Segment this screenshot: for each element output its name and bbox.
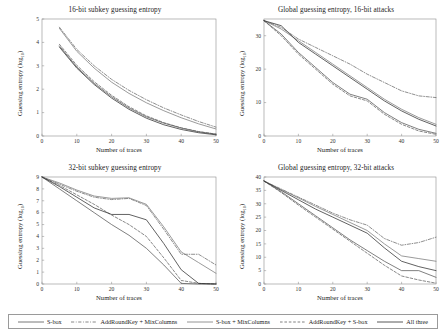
legend-label: S-box bbox=[47, 318, 62, 325]
x-axis-label: Number of traces bbox=[32, 146, 206, 153]
x-axis-label: Number of traces bbox=[254, 146, 426, 153]
y-axis-label-subscript: 10 bbox=[242, 53, 247, 57]
legend-label: AddRoundKey + MixColumns bbox=[100, 318, 177, 325]
legend-label: S-box + MixColumns bbox=[216, 318, 270, 325]
y-axis-label: Guessing entropy (log10) bbox=[16, 50, 25, 115]
x-tick-label: 0 bbox=[32, 286, 52, 292]
y-axis-label-paren: ) bbox=[238, 203, 245, 205]
series-line bbox=[264, 21, 436, 126]
x-tick-label: 0 bbox=[254, 286, 274, 292]
figure-root: 16-bit subkey guessing entropy0102030405… bbox=[0, 0, 445, 334]
legend-line-swatch bbox=[280, 319, 306, 325]
legend-row: S-boxAddRoundKey + MixColumnsS-box + Mix… bbox=[9, 315, 437, 328]
series-line bbox=[42, 177, 216, 284]
x-tick-label: 50 bbox=[206, 286, 226, 292]
y-axis-label-subscript: 10 bbox=[20, 206, 25, 210]
series-line bbox=[264, 21, 436, 134]
series-line bbox=[42, 177, 216, 284]
series-line bbox=[59, 44, 216, 134]
legend-line-swatch bbox=[71, 319, 97, 325]
y-tick-label: 15 bbox=[248, 241, 261, 247]
x-axis-label: Number of traces bbox=[32, 294, 206, 301]
x-tick-label: 30 bbox=[136, 286, 156, 292]
x-tick-label: 40 bbox=[392, 138, 412, 144]
y-axis-label-text: Guessing entropy (log bbox=[238, 57, 245, 116]
chart-panel-bottom-right: Global guessing entropy, 32-bit attacks0… bbox=[230, 164, 442, 306]
legend-label: All three bbox=[406, 318, 428, 325]
y-tick-label: 20 bbox=[248, 227, 261, 233]
legend-item[interactable]: AddRoundKey + MixColumns bbox=[71, 318, 177, 325]
x-tick-label: 50 bbox=[426, 286, 445, 292]
y-tick-label: 1 bbox=[26, 269, 39, 275]
chart-panel-top-right: Global guessing entropy, 16-bit attacks0… bbox=[230, 6, 442, 158]
legend-item[interactable]: S-box + MixColumns bbox=[187, 318, 270, 325]
x-tick-label: 10 bbox=[67, 138, 87, 144]
x-tick-label: 20 bbox=[102, 138, 122, 144]
plot-canvas bbox=[8, 6, 222, 158]
y-tick-label: 10 bbox=[248, 254, 261, 260]
x-tick-label: 20 bbox=[323, 138, 343, 144]
y-tick-label: 2 bbox=[26, 86, 39, 92]
x-tick-label: 40 bbox=[392, 286, 412, 292]
y-axis-label-text: Guessing entropy (log bbox=[238, 210, 245, 269]
y-tick-label: 4 bbox=[26, 39, 39, 45]
series-line bbox=[42, 177, 216, 284]
x-tick-label: 50 bbox=[206, 138, 226, 144]
y-tick-label: 2 bbox=[26, 257, 39, 263]
y-tick-label: 0 bbox=[248, 281, 261, 287]
y-tick-label: 8 bbox=[26, 186, 39, 192]
y-axis-label-text: Guessing entropy (log bbox=[16, 210, 23, 269]
x-tick-label: 30 bbox=[357, 138, 377, 144]
x-tick-label: 0 bbox=[254, 138, 274, 144]
y-tick-label: 4 bbox=[26, 233, 39, 239]
series-line bbox=[264, 181, 436, 245]
y-axis-label-subscript: 10 bbox=[20, 53, 25, 57]
legend-line-swatch bbox=[18, 319, 44, 325]
chart-panel-top-left: 16-bit subkey guessing entropy0102030405… bbox=[8, 6, 222, 158]
series-line bbox=[264, 21, 436, 98]
axes-frame bbox=[42, 177, 216, 284]
x-tick-label: 50 bbox=[426, 138, 445, 144]
y-tick-label: 3 bbox=[26, 245, 39, 251]
y-axis-label-paren: ) bbox=[16, 50, 23, 52]
y-tick-label: 10 bbox=[248, 99, 261, 105]
legend-label: AddRoundKey + S-box bbox=[309, 318, 368, 325]
y-tick-label: 1 bbox=[26, 109, 39, 115]
legend-item[interactable]: AddRoundKey + S-box bbox=[280, 318, 368, 325]
x-tick-label: 10 bbox=[288, 286, 308, 292]
y-tick-label: 25 bbox=[248, 214, 261, 220]
y-tick-label: 0 bbox=[26, 281, 39, 287]
series-line bbox=[264, 181, 436, 283]
x-tick-label: 10 bbox=[288, 138, 308, 144]
x-tick-label: 20 bbox=[102, 286, 122, 292]
axes-frame bbox=[42, 19, 216, 136]
y-tick-label: 40 bbox=[248, 174, 261, 180]
y-tick-label: 0 bbox=[26, 133, 39, 139]
y-axis-label: Guessing entropy (log10) bbox=[238, 203, 247, 268]
y-tick-label: 3 bbox=[26, 63, 39, 69]
y-axis-label-paren: ) bbox=[238, 50, 245, 52]
x-tick-label: 40 bbox=[171, 286, 191, 292]
y-axis-label: Guessing entropy (log10) bbox=[16, 203, 25, 268]
legend-line-swatch bbox=[377, 319, 403, 325]
legend-line-swatch bbox=[187, 319, 213, 325]
y-tick-label: 9 bbox=[26, 174, 39, 180]
y-axis-label-paren: ) bbox=[16, 203, 23, 205]
y-tick-label: 5 bbox=[26, 221, 39, 227]
x-tick-label: 0 bbox=[32, 138, 52, 144]
x-tick-label: 30 bbox=[136, 138, 156, 144]
legend: S-boxAddRoundKey + MixColumnsS-box + Mix… bbox=[8, 314, 438, 329]
x-tick-label: 20 bbox=[323, 286, 343, 292]
legend-item[interactable]: All three bbox=[377, 318, 428, 325]
x-tick-label: 10 bbox=[67, 286, 87, 292]
legend-item[interactable]: S-box bbox=[18, 318, 62, 325]
y-tick-label: 30 bbox=[248, 201, 261, 207]
y-tick-label: 0 bbox=[248, 133, 261, 139]
plot-canvas bbox=[230, 6, 442, 158]
x-axis-label: Number of traces bbox=[254, 294, 426, 301]
y-tick-label: 7 bbox=[26, 198, 39, 204]
y-tick-label: 35 bbox=[248, 187, 261, 193]
y-axis-label: Guessing entropy (log10) bbox=[238, 50, 247, 115]
y-axis-label-subscript: 10 bbox=[242, 206, 247, 210]
y-axis-label-text: Guessing entropy (log bbox=[16, 57, 23, 116]
